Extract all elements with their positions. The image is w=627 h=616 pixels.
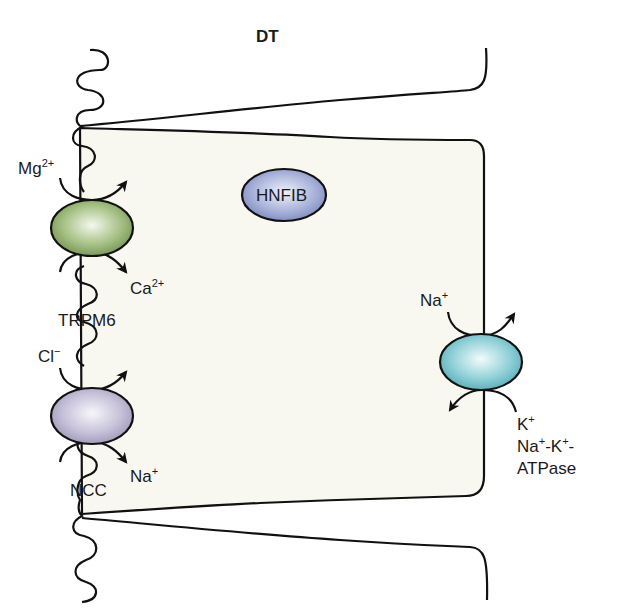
na-ion-charge-atpase: + [442,289,448,301]
trpm6-channel [51,200,133,256]
na-ion-label-ncc: Na+ [130,468,158,485]
ca-ion-charge: 2+ [152,277,165,289]
ca-ion-base: Ca [130,279,152,298]
cl-ion-base: Cl [38,347,54,366]
nak-atpase-name-line1: Na+-K+- [517,438,574,455]
ncc-label: NCC [70,482,107,499]
diagram-title: DT [256,28,279,45]
cl-ion-charge: − [54,345,60,357]
trpm6-label: TRPM6 [58,312,116,329]
nak-atpase-name-line2: ATPase [517,460,576,477]
diagram-canvas [0,0,627,616]
nak-atpase-ellipse [440,334,522,390]
cl-ion-label: Cl− [38,348,61,365]
mg-ion-base: Mg [18,159,42,178]
k-ion-base: K [517,415,528,434]
lower-neighbor-cell-edge [82,518,487,600]
hnfib-label: HNFIB [256,187,307,204]
na-ion-base-atpase: Na [420,291,442,310]
k-part: -K [545,437,562,456]
k-ion-charge: + [528,413,534,425]
na-ion-charge: + [152,465,158,477]
k-ion-label: K+ [517,416,535,433]
mg-ion-charge: 2+ [42,157,55,169]
ca-ion-label: Ca2+ [130,280,164,297]
na-ion-label-atpase: Na+ [420,292,448,309]
ncc-cotransporter [51,388,133,444]
na-part: Na [517,437,539,456]
dash: - [569,437,575,456]
mg-ion-label: Mg2+ [18,160,54,177]
upper-neighbor-cell-edge [80,48,486,126]
na-ion-base: Na [130,467,152,486]
